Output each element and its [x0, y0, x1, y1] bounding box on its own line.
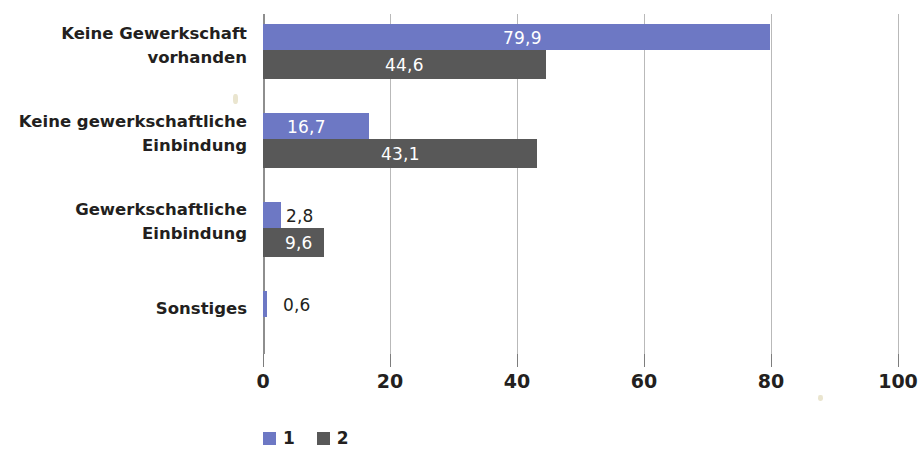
category-label-gewerkschaftliche-einbindung: Gewerkschaftliche Einbindung — [0, 198, 247, 246]
bar-group-keine-gewerkschaft-vorhanden: 79,9 44,6 — [263, 24, 898, 88]
bar-series-1[interactable] — [263, 202, 281, 228]
legend-swatch-icon — [317, 432, 330, 445]
x-tick-100 — [898, 354, 899, 367]
scan-speck — [818, 395, 823, 401]
bar-chart: Keine Gewerkschaft vorhanden Keine gewer… — [0, 0, 918, 467]
x-tick-80 — [771, 354, 772, 367]
bar-value-label: 79,9 — [503, 30, 542, 47]
x-tick-0 — [263, 354, 264, 367]
x-axis-labels: 0 20 40 60 80 100 — [263, 372, 898, 398]
category-label-keine-gewerkschaft-vorhanden: Keine Gewerkschaft vorhanden — [0, 22, 247, 70]
gridline-100 — [898, 14, 899, 354]
category-label-line: vorhanden — [0, 46, 247, 70]
category-label-line: Keine Gewerkschaft — [0, 22, 247, 46]
category-label-line: Keine gewerkschaftliche — [0, 110, 247, 134]
x-axis-label-20: 20 — [377, 372, 403, 391]
x-tick-40 — [517, 354, 518, 367]
bar-value-label: 2,8 — [286, 208, 314, 225]
bar-group-keine-gewerkschaftliche-einbindung: 16,7 43,1 — [263, 113, 898, 177]
legend: 1 2 — [263, 430, 349, 447]
legend-item-2[interactable]: 2 — [317, 430, 349, 447]
bar-group-gewerkschaftliche-einbindung: 2,8 9,6 — [263, 202, 898, 266]
legend-swatch-icon — [263, 432, 276, 445]
legend-label: 1 — [283, 430, 295, 447]
x-tick-20 — [390, 354, 391, 367]
plot-area: 79,9 44,6 16,7 43,1 2,8 9,6 0,6 — [263, 14, 898, 354]
scan-speck — [233, 94, 238, 104]
x-axis-label-40: 40 — [504, 372, 530, 391]
x-axis-label-60: 60 — [631, 372, 657, 391]
x-axis-label-100: 100 — [878, 372, 918, 391]
category-label-line: Sonstiges — [0, 297, 247, 321]
bar-value-label: 0,6 — [283, 297, 311, 314]
legend-item-1[interactable]: 1 — [263, 430, 295, 447]
bar-value-label: 44,6 — [385, 57, 424, 74]
bar-group-sonstiges: 0,6 — [263, 291, 898, 355]
category-label-line: Gewerkschaftliche — [0, 198, 247, 222]
x-axis-label-80: 80 — [758, 372, 784, 391]
category-label-line: Einbindung — [0, 222, 247, 246]
bar-value-label: 43,1 — [381, 146, 420, 163]
bar-value-label: 16,7 — [287, 119, 326, 136]
x-axis-ticks — [263, 354, 898, 368]
x-tick-60 — [644, 354, 645, 367]
legend-label: 2 — [337, 430, 349, 447]
bar-series-1[interactable] — [263, 291, 267, 317]
category-label-keine-gewerkschaftliche-einbindung: Keine gewerkschaftliche Einbindung — [0, 110, 247, 158]
category-label-line: Einbindung — [0, 134, 247, 158]
bar-value-label: 9,6 — [285, 235, 313, 252]
x-axis-label-0: 0 — [256, 372, 269, 391]
category-label-sonstiges: Sonstiges — [0, 297, 247, 321]
